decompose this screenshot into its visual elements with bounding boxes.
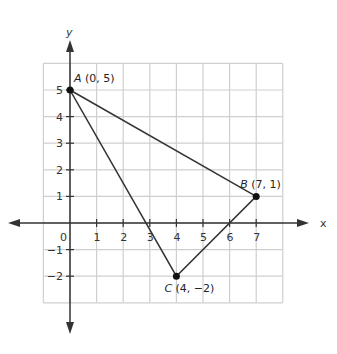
y-tick-label: 4	[56, 111, 63, 124]
point-label-b: B (7, 1)	[240, 178, 281, 191]
x-tick-label: 3	[147, 231, 154, 244]
y-axis-down-arrow-icon	[66, 322, 74, 334]
x-axis-left-arrow-icon	[8, 219, 20, 227]
y-tick-label: 1	[56, 190, 63, 203]
y-tick-label: −2	[47, 270, 63, 283]
coordinate-plane: xy 1234567054321−1−2 A (0, 5)B (7, 1)C (…	[0, 0, 337, 354]
points: A (0, 5)B (7, 1)C (4, −2)	[67, 72, 281, 295]
y-axis-up-arrow-icon	[66, 40, 74, 52]
x-tick-label: 7	[253, 231, 260, 244]
point-label-c: C (4, −2)	[164, 282, 214, 295]
y-tick-label: −1	[47, 244, 63, 257]
point-c	[173, 273, 180, 280]
point-b	[253, 193, 260, 200]
y-tick-label: 3	[56, 137, 63, 150]
point-a	[67, 87, 74, 94]
x-axis-right-arrow-icon	[297, 219, 309, 227]
point-label-a: A (0, 5)	[73, 72, 115, 85]
x-tick-label: 5	[200, 231, 207, 244]
x-tick-label: 4	[173, 231, 180, 244]
x-tick-label: 6	[227, 231, 234, 244]
x-tick-label: 2	[120, 231, 127, 244]
triangle-abc	[70, 90, 256, 276]
y-tick-label: 2	[56, 164, 63, 177]
x-axis-label: x	[320, 217, 327, 230]
y-tick-label: 5	[56, 84, 63, 97]
origin-label: 0	[60, 231, 67, 244]
tick-labels: 1234567054321−1−2	[47, 84, 260, 283]
y-axis-label: y	[65, 26, 73, 39]
x-tick-label: 1	[94, 231, 101, 244]
